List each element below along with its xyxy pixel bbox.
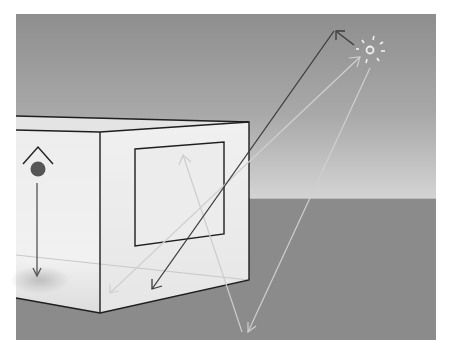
window <box>135 142 224 246</box>
light-reflection-diagram <box>0 0 451 353</box>
